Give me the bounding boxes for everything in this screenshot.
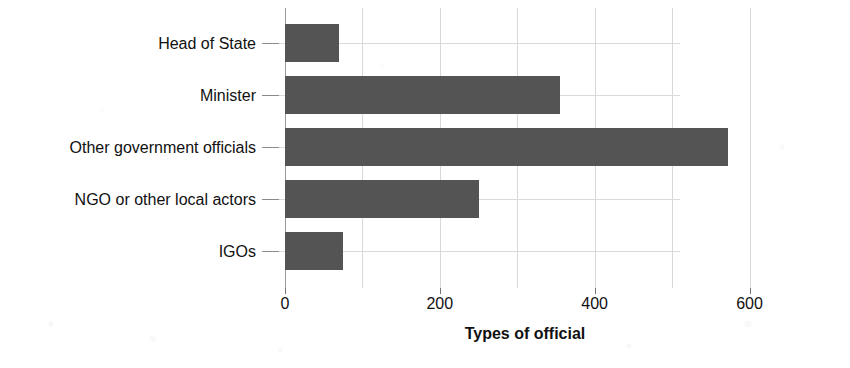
category-label-igos: IGOs bbox=[219, 242, 256, 261]
category-label-ngo-or-other-local-actors: NGO or other local actors bbox=[75, 190, 256, 209]
x-tick-label-0: 0 bbox=[245, 294, 325, 313]
category-label-head-of-state: Head of State bbox=[158, 34, 256, 53]
x-tick-label-200: 200 bbox=[400, 294, 480, 313]
bar-igos bbox=[285, 232, 343, 270]
category-label-other-government-officials: Other government officials bbox=[70, 138, 256, 157]
category-axis-labels: Head of State Minister Other government … bbox=[0, 0, 256, 368]
bar-ngo-or-other-local-actors bbox=[285, 180, 479, 218]
bar-chart-figure: Head of State Minister Other government … bbox=[0, 0, 850, 368]
bar-head-of-state bbox=[285, 24, 339, 62]
x-tick-label-600: 600 bbox=[710, 294, 790, 313]
x-tick-label-400: 400 bbox=[555, 294, 635, 313]
category-label-minister: Minister bbox=[200, 86, 256, 105]
x-axis-title: Types of official bbox=[285, 325, 765, 343]
bar-other-government-officials bbox=[285, 128, 728, 166]
bar-minister bbox=[285, 76, 560, 114]
plot-area bbox=[285, 8, 765, 288]
gridline-v-600 bbox=[750, 8, 751, 288]
